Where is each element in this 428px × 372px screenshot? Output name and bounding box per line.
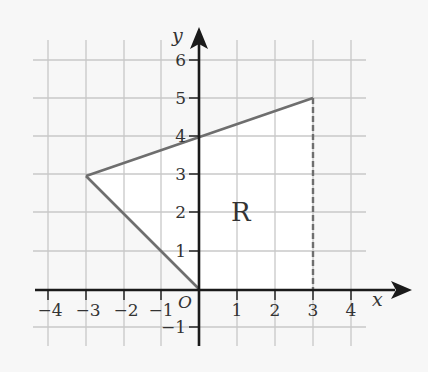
y-tick-label: 3 [175, 164, 186, 184]
x-tick-label: −2 [113, 300, 138, 320]
x-tick-label: −4 [37, 300, 62, 320]
y-tick-label: 2 [175, 202, 186, 222]
coordinate-diagram: −4 −3 −2 −1 1 2 3 4 6 5 4 3 2 1 −1 x y O… [0, 0, 428, 372]
x-tick-label: −3 [75, 300, 100, 320]
x-tick-label: 1 [232, 300, 243, 320]
x-tick-label: 3 [308, 300, 319, 320]
y-tick-label: 5 [175, 88, 186, 108]
y-tick-label: −1 [161, 317, 186, 337]
y-axis-label: y [171, 24, 183, 46]
x-axis-label: x [372, 288, 383, 310]
region-label: R [231, 197, 252, 227]
origin-label: O [178, 292, 192, 312]
y-tick-label: 1 [175, 241, 186, 261]
x-tick-label: 2 [270, 300, 281, 320]
x-tick-label: 4 [346, 300, 357, 320]
y-tick-label: 4 [175, 126, 186, 146]
y-tick-label: 6 [175, 50, 186, 70]
